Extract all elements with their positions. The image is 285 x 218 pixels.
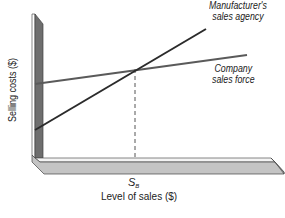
company-label-line1: Company [212,64,255,75]
company-label-line2: sales force [212,75,255,86]
x-axis-floor [32,155,284,174]
agency-label-line1: Manufacturer's [209,1,267,12]
break-even-label-sub: B [135,183,139,189]
chart-canvas [0,0,285,218]
break-even-label: SB [128,176,139,189]
y-axis-label: Selling costs ($) [7,58,18,122]
x-axis-label: Level of sales ($) [101,192,177,203]
agency-series-label: Manufacturer's sales agency [209,1,267,22]
agency-label-line2: sales agency [209,12,267,23]
y-axis-wall [32,14,43,158]
company-series-label: Company sales force [212,64,255,85]
